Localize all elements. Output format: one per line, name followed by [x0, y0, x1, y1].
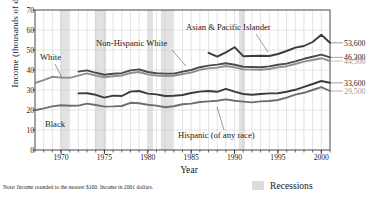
recession-band [148, 10, 153, 150]
x-tick-label: 1970 [53, 153, 68, 162]
x-axis-title: Year [0, 164, 378, 175]
series-label-non-hispanic-white: Non-Hispanic White [96, 38, 167, 48]
x-tick-label: 1990 [227, 153, 242, 162]
income-by-race-chart: Income (thousands of dollars) 0102030405… [0, 0, 378, 198]
recession-band [161, 10, 173, 150]
end-value-label-white: 44,500 [344, 57, 365, 66]
x-tick-label: 1985 [184, 153, 199, 162]
end-value-label-hispanic-of-any-race: 29,500 [344, 87, 365, 96]
x-tick-label: 1995 [270, 153, 285, 162]
chart-note: Note: Income rounded to the nearest $100… [3, 184, 153, 190]
recession-band [60, 10, 69, 150]
recession-swatch-icon [252, 181, 264, 190]
leader-line [172, 50, 186, 66]
series-label-hispanic: Hispanic (of any race) [178, 130, 255, 140]
series-label-asian-pacific-islander: Asian & Pacific Islander [186, 22, 271, 32]
series-label-black: Black [45, 119, 65, 129]
series-label-white: White [40, 52, 61, 62]
x-tick-label: 2000 [314, 153, 329, 162]
legend-label-recessions: Recessions [270, 180, 313, 191]
leader-line [256, 34, 268, 52]
x-tick-label: 1975 [97, 153, 112, 162]
x-tick-label: 1980 [140, 153, 155, 162]
legend: Recessions [252, 180, 313, 191]
end-value-label-asian-pacific-islander: 53,600 [344, 38, 365, 47]
leader-line [217, 107, 224, 130]
